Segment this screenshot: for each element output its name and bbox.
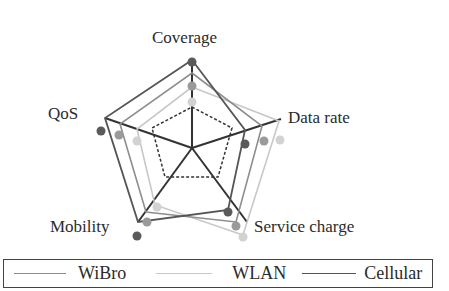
legend-item-wlan: WLAN [156, 263, 286, 284]
axis-label-mobility: Mobility [50, 217, 110, 237]
legend-label-wibro: WiBro [78, 263, 126, 284]
legend-line-wlan [156, 273, 212, 274]
legend-item-cellular: Cellular [302, 263, 422, 284]
axis-label-qos: QoS [48, 104, 78, 124]
legend-label-wlan: WLAN [232, 263, 286, 284]
legend-line-cellular [302, 273, 356, 274]
legend-line-wibro [14, 273, 66, 274]
legend-item-wibro: WiBro [14, 263, 126, 284]
axis-label-data-rate: Data rate [288, 108, 350, 128]
legend: WiBro WLAN Cellular [3, 259, 433, 288]
axis-label-service-charge: Service charge [254, 217, 354, 237]
axis-label-coverage: Coverage [152, 28, 217, 48]
legend-label-cellular: Cellular [364, 263, 422, 284]
